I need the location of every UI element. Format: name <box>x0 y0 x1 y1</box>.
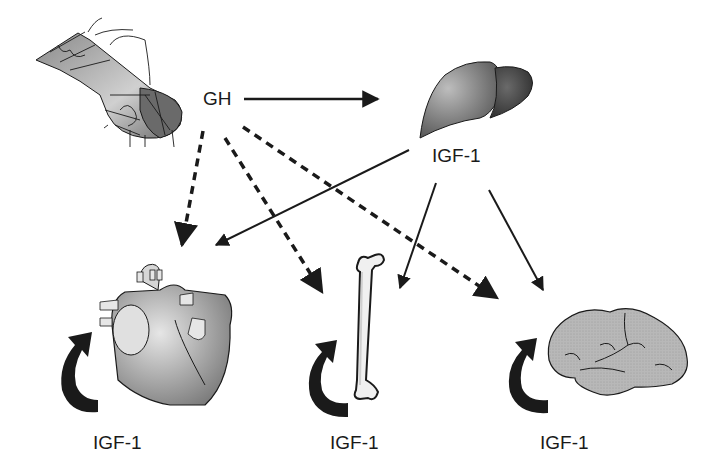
pituitary-gland-icon <box>36 18 182 147</box>
liver-icon <box>420 62 533 138</box>
liver-to-bone-arrow <box>400 183 436 288</box>
bone-autocrine-loop-icon <box>309 340 348 417</box>
liver-to-heart-arrow <box>216 150 409 245</box>
brain-igf1-label: IGF-1 <box>540 432 589 454</box>
gh-to-heart-dashed-arrow <box>182 131 203 245</box>
gh-label: GH <box>203 88 232 110</box>
gh-igf1-axis-diagram: GH IGF-1 IGF-1 IGF-1 IGF-1 <box>0 0 716 471</box>
gh-to-bone-dashed-arrow <box>225 138 322 292</box>
brain-icon <box>548 309 687 395</box>
liver-igf1-label: IGF-1 <box>432 145 481 167</box>
heart-igf1-label: IGF-1 <box>93 432 142 454</box>
bone-igf1-label: IGF-1 <box>330 432 379 454</box>
heart-autocrine-loop-icon <box>61 332 98 412</box>
liver-to-brain-arrow <box>489 190 543 290</box>
bone-icon <box>355 254 384 399</box>
brain-autocrine-loop-icon <box>509 338 548 413</box>
heart-icon <box>100 264 232 405</box>
